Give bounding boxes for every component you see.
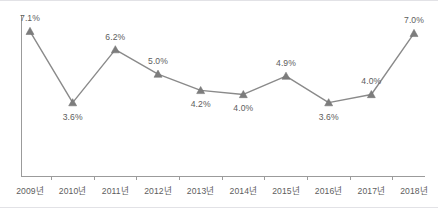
x-axis-tick-label: 2018년 — [400, 186, 428, 196]
x-axis-tick-label: 2010년 — [59, 186, 87, 196]
data-point-marker — [154, 70, 162, 77]
chart-figure: 7.1%3.6%6.2%5.0%4.2%4.0%4.9%3.6%4.0%7.0%… — [0, 0, 438, 208]
x-axis-tick-label: 2016년 — [315, 186, 343, 196]
data-point-markers — [26, 27, 418, 106]
x-axis-tick-label: 2012년 — [144, 186, 172, 196]
data-point-label: 4.0% — [361, 76, 381, 86]
data-point-marker — [282, 72, 290, 79]
x-axis-tick-label: 2014년 — [230, 186, 258, 196]
data-point-label: 5.0% — [148, 56, 168, 66]
data-point-label: 4.9% — [276, 58, 296, 68]
data-point-marker — [410, 29, 418, 36]
x-axis-tick-label: 2011년 — [102, 186, 129, 196]
x-axis-tick-label: 2009년 — [16, 186, 44, 196]
series-line-path — [30, 31, 414, 102]
data-point-labels: 7.1%3.6%6.2%5.0%4.2%4.0%4.9%3.6%4.0%7.0% — [20, 13, 424, 121]
data-point-label: 4.0% — [233, 103, 253, 113]
x-axis-tick-label: 2017년 — [358, 186, 386, 196]
x-axis-tick-label: 2015년 — [272, 186, 300, 196]
data-point-label: 4.2% — [191, 99, 211, 109]
data-point-label: 3.6% — [63, 112, 83, 122]
line-chart-canvas: 7.1%3.6%6.2%5.0%4.2%4.0%4.9%3.6%4.0%7.0%… — [0, 1, 438, 208]
data-point-label: 7.1% — [20, 13, 40, 23]
x-axis-tick-labels: 2009년2010년2011년2012년2013년2014년2015년2016년… — [16, 186, 428, 196]
data-point-label: 3.6% — [319, 112, 339, 122]
x-axis-tick-label: 2013년 — [187, 186, 215, 196]
series-group — [30, 31, 414, 102]
x-axis-ticks — [51, 176, 392, 180]
data-point-label: 6.2% — [105, 32, 125, 42]
data-point-marker — [111, 46, 119, 53]
data-point-marker — [26, 27, 34, 34]
data-point-label: 7.0% — [404, 15, 424, 25]
